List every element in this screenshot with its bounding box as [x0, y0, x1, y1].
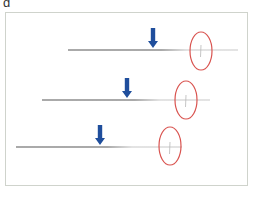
tick-mark [186, 95, 187, 107]
down-arrow-icon [148, 28, 158, 48]
down-arrow-icon [95, 125, 105, 145]
figure-drawing [0, 0, 257, 219]
tick-mark [201, 45, 202, 57]
tick-mark [170, 142, 171, 154]
down-arrow-icon [122, 78, 132, 98]
